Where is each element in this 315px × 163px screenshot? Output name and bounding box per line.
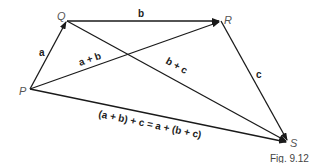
vector-label-b-plus-c: b + c (164, 55, 190, 76)
vector-label-c: c (256, 69, 262, 80)
figure-caption: Fig. 9.12 (270, 153, 309, 163)
point-label-r: R (224, 14, 232, 26)
vector-label-associative: (a + b) + c = a + (b + c) (98, 108, 203, 140)
vector-a (30, 22, 66, 89)
point-label-s: S (290, 137, 298, 149)
point-label-p: P (19, 85, 27, 97)
vector-c (221, 21, 287, 140)
vector-a-plus-b (30, 22, 219, 89)
vector-sum (30, 89, 286, 142)
vector-diagram: Q R P S a b c a + b b + c (a + b) + c = … (0, 0, 315, 163)
vector-label-a: a (39, 47, 45, 58)
vector-label-b: b (138, 8, 144, 19)
vector-b-plus-c (67, 21, 286, 141)
point-label-q: Q (57, 10, 66, 22)
